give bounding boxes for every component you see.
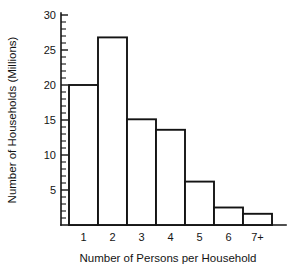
histogram-figure: 5 10 15 20 25 30 [0,0,294,271]
y-axis-tick-labels: 5 10 15 20 25 30 [44,9,56,196]
x-axis-tick-labels: 1 2 3 4 5 6 7+ [80,231,263,243]
y-axis-major-ticks [61,15,68,190]
bar-4 [156,130,185,225]
y-tick-label-25: 25 [44,44,56,56]
y-axis-title: Number of Households (Millions) [6,36,18,203]
x-tick-label-7plus: 7+ [251,231,264,243]
y-tick-label-10: 10 [44,149,56,161]
bar-3 [127,119,156,225]
y-tick-label-30: 30 [44,9,56,21]
y-tick-label-5: 5 [50,184,56,196]
x-axis-title: Number of Persons per Household [79,252,256,264]
x-tick-label-2: 2 [109,231,115,243]
x-tick-label-1: 1 [80,231,86,243]
x-tick-label-3: 3 [138,231,144,243]
bar-7plus [243,214,272,225]
bar-6 [214,208,243,226]
histogram-svg: 5 10 15 20 25 30 [0,0,294,271]
x-tick-label-5: 5 [196,231,202,243]
bar-1 [69,85,98,225]
bar-5 [185,182,214,225]
x-tick-label-6: 6 [225,231,231,243]
bar-series [69,37,272,225]
x-tick-label-4: 4 [167,231,173,243]
y-tick-label-15: 15 [44,114,56,126]
bar-2 [98,37,127,225]
y-tick-label-20: 20 [44,79,56,91]
